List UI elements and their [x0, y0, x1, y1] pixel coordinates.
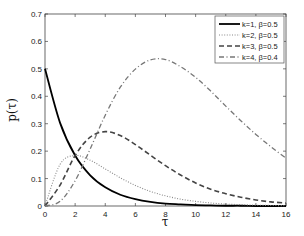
y-tick-label: 0.1 — [31, 175, 43, 184]
x-tick-label: 0 — [43, 210, 48, 219]
x-tick-label: 12 — [221, 210, 230, 219]
legend-label-3: k=3, β=0.5 — [242, 42, 278, 51]
y-tick-label: 0.6 — [31, 37, 43, 46]
y-axis-label: p(τ) — [5, 98, 19, 122]
y-tick-label: 0.3 — [31, 120, 43, 129]
legend-label-4: k=4, β=0.4 — [242, 53, 278, 62]
y-tick-label: 0.4 — [31, 92, 43, 101]
x-tick-label: 10 — [191, 210, 200, 219]
x-tick-label: 2 — [73, 210, 78, 219]
x-tick-label: 16 — [282, 210, 291, 219]
legend-label-1: k=1, β=0.5 — [242, 20, 278, 29]
chart-canvas: 0246810121416 00.10.20.30.40.50.60.7 τ p… — [0, 0, 304, 236]
x-axis-label: τ — [162, 215, 169, 229]
y-tick-label: 0 — [38, 202, 43, 211]
x-tick-label: 6 — [133, 210, 138, 219]
legend: k=1, β=0.5k=2, β=0.5k=3, β=0.5k=4, β=0.4 — [215, 16, 284, 63]
y-tick-label: 0.5 — [31, 65, 43, 74]
x-tick-label: 4 — [103, 210, 108, 219]
y-tick-label: 0.2 — [31, 147, 43, 156]
x-tick-label: 14 — [251, 210, 260, 219]
y-tick-label: 0.7 — [31, 10, 43, 19]
legend-label-2: k=2, β=0.5 — [242, 31, 278, 40]
